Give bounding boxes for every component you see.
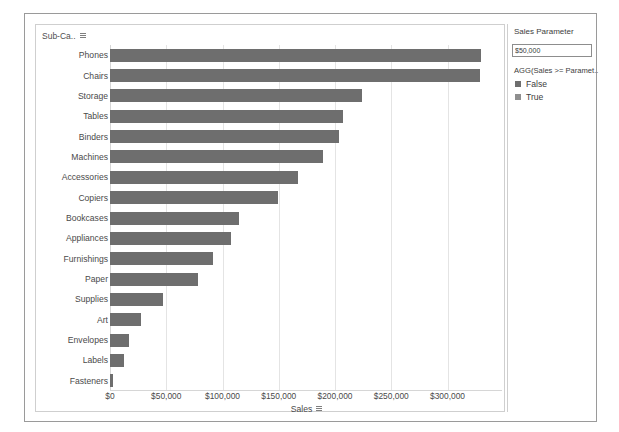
bar[interactable] (110, 171, 298, 184)
legend-item[interactable]: True (514, 92, 592, 102)
legend-items: FalseTrue (512, 79, 592, 102)
x-axis: Sales $0$50,000$100,000$150,000$200,000$… (110, 391, 504, 413)
y-axis-tick-label[interactable]: Paper (36, 274, 108, 284)
bar[interactable] (110, 252, 213, 265)
bar[interactable] (110, 334, 129, 347)
x-axis-tick-label: $250,000 (374, 391, 409, 401)
legend-item[interactable]: False (514, 79, 592, 89)
y-axis-field-pill[interactable]: Sub-Ca.. (42, 29, 87, 43)
bar[interactable] (110, 89, 362, 102)
y-axis-tick-label[interactable]: Envelopes (36, 335, 108, 345)
bar[interactable] (110, 49, 481, 62)
y-axis-tick-label[interactable]: Appliances (36, 233, 108, 243)
gridline (448, 45, 449, 391)
sort-descending-icon[interactable] (79, 32, 87, 40)
bar[interactable] (110, 313, 141, 326)
legend-color-swatch (514, 93, 522, 101)
y-axis-tick-label[interactable]: Chairs (36, 71, 108, 81)
bar[interactable] (110, 130, 339, 143)
y-axis-tick-label[interactable]: Storage (36, 91, 108, 101)
bar[interactable] (110, 212, 239, 225)
y-axis-labels: PhonesChairsStorageTablesBindersMachines… (36, 45, 108, 391)
bar[interactable] (110, 150, 323, 163)
y-axis-tick-label[interactable]: Machines (36, 152, 108, 162)
y-axis-tick-label[interactable]: Phones (36, 50, 108, 60)
x-axis-tick-label: $0 (105, 391, 114, 401)
x-axis-tick-label: $50,000 (151, 391, 181, 401)
legend-title: AGG(Sales >= Paramet.. (514, 66, 592, 75)
legend-item-label: False (526, 79, 547, 89)
bar[interactable] (110, 293, 163, 306)
bar[interactable] (110, 69, 480, 82)
bar[interactable] (110, 232, 231, 245)
bar[interactable] (110, 191, 278, 204)
y-axis-tick-label[interactable]: Supplies (36, 294, 108, 304)
y-axis-tick-label[interactable]: Fasteners (36, 376, 108, 386)
parameter-title: Sales Parameter (514, 27, 592, 36)
plot-region: PhonesChairsStorageTablesBindersMachines… (36, 45, 506, 391)
bars-area (110, 45, 506, 391)
x-axis-title-label: Sales (291, 404, 313, 414)
x-axis-tick-label: $300,000 (430, 391, 465, 401)
sales-parameter-input[interactable] (512, 44, 592, 57)
bar[interactable] (110, 110, 343, 123)
gridline (391, 45, 392, 391)
x-axis-tick-label: $150,000 (261, 391, 296, 401)
legend-item-label: True (526, 92, 543, 102)
sort-descending-icon[interactable] (315, 405, 323, 413)
y-axis-tick-label[interactable]: Binders (36, 132, 108, 142)
y-axis-tick-label[interactable]: Furnishings (36, 254, 108, 264)
bar[interactable] (110, 273, 198, 286)
y-axis-tick-label[interactable]: Bookcases (36, 213, 108, 223)
x-axis-tick-label: $200,000 (318, 391, 353, 401)
side-panel: Sales Parameter AGG(Sales >= Paramet.. F… (507, 24, 592, 412)
x-axis-tick-label: $100,000 (205, 391, 240, 401)
bar[interactable] (110, 374, 113, 387)
y-axis-tick-label[interactable]: Labels (36, 355, 108, 365)
bar[interactable] (110, 354, 124, 367)
y-axis-field-label: Sub-Ca.. (42, 31, 76, 41)
visualization-window: Sub-Ca.. PhonesChairsStorageTablesBinder… (24, 13, 597, 422)
y-axis-tick-label[interactable]: Accessories (36, 172, 108, 182)
chart-panel: Sub-Ca.. PhonesChairsStorageTablesBinder… (35, 24, 505, 412)
legend-color-swatch (514, 80, 522, 88)
y-axis-tick-label[interactable]: Art (36, 315, 108, 325)
y-axis-tick-label[interactable]: Copiers (36, 193, 108, 203)
y-axis-tick-label[interactable]: Tables (36, 111, 108, 121)
x-axis-title[interactable]: Sales (110, 404, 504, 414)
